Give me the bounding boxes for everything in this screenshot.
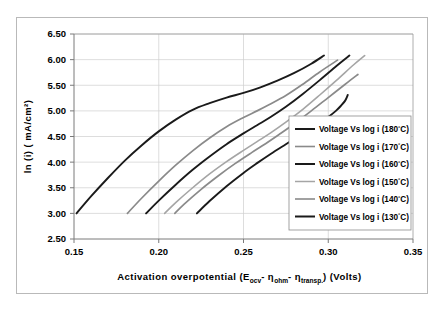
y-tick-label: 2.50: [48, 233, 67, 244]
chart-figure: 2.503.003.504.004.505.005.506.006.500.15…: [16, 17, 428, 294]
x-tick-label: 0.30: [319, 246, 338, 257]
legend-entry-label: Voltage Vs log i (130°C): [319, 212, 409, 222]
y-tick-label: 4.00: [48, 157, 67, 168]
y-tick-label: 3.50: [48, 182, 67, 193]
y-tick-label: 6.50: [48, 28, 67, 39]
y-tick-label: 6.00: [48, 54, 67, 65]
x-tick-label: 0.20: [150, 246, 169, 257]
y-tick-label: 5.50: [48, 80, 67, 91]
chart-legend: Voltage Vs log i (180°C)Voltage Vs log i…: [289, 116, 411, 230]
legend-entry-label: Voltage Vs log i (160°C): [319, 160, 409, 170]
legend-entry-label: Voltage Vs log i (180°C): [319, 125, 409, 135]
x-tick-label: 0.15: [65, 246, 84, 257]
y-axis-title: ln (i) ( mA/cm²): [22, 100, 33, 174]
chart-plot-svg: 2.503.003.504.004.505.005.506.006.500.15…: [17, 18, 429, 295]
x-tick-label: 0.25: [234, 246, 253, 257]
x-axis-title: Activation overpotential (Eocv- ηohm- ηt…: [117, 271, 361, 285]
legend-entry-label: Voltage Vs log i (140°C): [319, 195, 409, 205]
legend-entry-label: Voltage Vs log i (150°C): [319, 177, 409, 187]
x-tick-label: 0.35: [404, 246, 423, 257]
y-tick-label: 3.00: [48, 208, 67, 219]
y-tick-label: 5.00: [48, 105, 67, 116]
legend-entry-label: Voltage Vs log i (170°C): [319, 142, 409, 152]
y-tick-label: 4.50: [48, 131, 67, 142]
